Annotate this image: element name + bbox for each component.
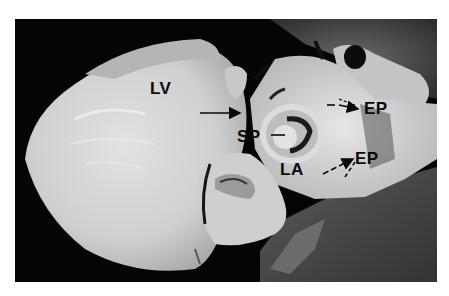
label-ep-lower: EP: [355, 150, 379, 167]
label-left-atrium: LA: [280, 161, 304, 178]
label-ep-upper: EP: [364, 100, 388, 117]
label-left-ventricle: LV: [150, 80, 171, 97]
specimen-photo: LV SP LA EP EP: [15, 19, 437, 282]
label-septal-primum: SP: [237, 128, 261, 145]
